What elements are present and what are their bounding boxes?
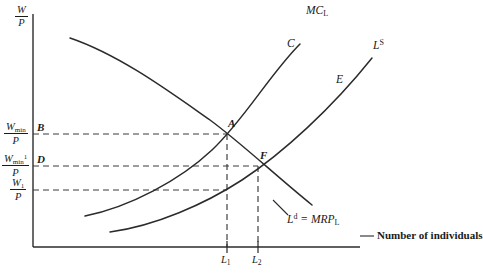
point-label-f: F	[260, 150, 267, 161]
curve-label-labour-demand: Ld = MRPL	[287, 214, 339, 226]
y-tick-numerator: W1	[10, 177, 26, 189]
x-tick-label-l2: L2	[252, 255, 262, 266]
x-axis-title: Number of individuals	[377, 230, 483, 241]
point-label-d: D	[37, 154, 45, 165]
y-tick-label-w-min-1-over-p: Wmin1 P	[2, 153, 29, 178]
curve-label-e: E	[336, 74, 343, 86]
y-tick-numerator: Wmin1	[2, 153, 29, 165]
y-tick-denominator: P	[10, 191, 26, 202]
x-tick-label-l1: L1	[221, 255, 231, 266]
y-axis-title: W P	[15, 4, 28, 29]
point-label-a: A	[228, 118, 235, 129]
curve-label-ls: LS	[373, 40, 384, 52]
y-tick-denominator: P	[4, 135, 28, 146]
curve-label-c: C	[287, 38, 295, 50]
y-tick-label-w-1-over-p: W1 P	[10, 177, 26, 202]
y-axis-title-numerator: W	[15, 4, 28, 15]
curve-labour-demand	[70, 38, 312, 205]
point-label-b: B	[37, 122, 44, 133]
y-axis-title-denominator: P	[15, 17, 28, 28]
curve-label-mc-l: MCL	[306, 5, 328, 17]
demand-callout-leader	[273, 200, 288, 215]
y-tick-label-w-min-over-p: Wmin P	[4, 121, 28, 146]
y-tick-numerator: Wmin	[4, 121, 28, 133]
